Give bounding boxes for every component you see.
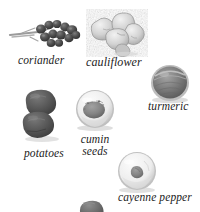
potatoes-pair-icon (16, 87, 68, 143)
cropped-specimen-icon (78, 198, 104, 212)
caption-turmeric: turmeric (148, 101, 188, 113)
caption-cauliflower: cauliflower (86, 56, 142, 68)
cumin-seeds-bowl-icon (72, 88, 118, 132)
coriander-seed-cluster-icon (8, 16, 84, 50)
turmeric-mound-icon (148, 62, 192, 104)
caption-coriander: coriander (18, 55, 64, 67)
cayenne-pepper-bowl-icon (114, 150, 160, 194)
caption-cumin-seeds-line-2: seeds (72, 146, 118, 158)
caption-cayenne-pepper: cayenne pepper (118, 192, 192, 204)
spice-specimen-figure: coriander (0, 0, 200, 212)
caption-potatoes: potatoes (24, 148, 64, 160)
caption-cumin-seeds: cumin seeds (72, 134, 118, 158)
cauliflower-florets-icon (86, 9, 148, 57)
